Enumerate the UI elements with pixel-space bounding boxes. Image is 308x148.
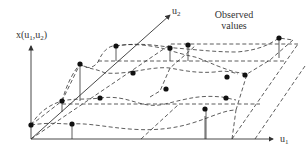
u2-axis [31, 15, 170, 139]
observed-point [130, 70, 135, 75]
surface-edge-left [31, 64, 80, 125]
surface-row-4 [80, 38, 293, 68]
observed-point [185, 42, 190, 47]
y-axis-label: x(u1,u2) [16, 29, 47, 42]
u1-axis-label: u1 [280, 133, 289, 146]
observed-point [242, 72, 247, 77]
observed-point [224, 74, 229, 79]
observed-point [77, 61, 82, 66]
observed-point [223, 95, 228, 100]
observed-point [167, 45, 172, 50]
observed-point [59, 98, 64, 103]
observed-points [28, 35, 281, 127]
random-field-diagram: x(u1,u2) u2 u1 Observed values [0, 0, 308, 148]
observed-point [276, 35, 281, 40]
observed-point [113, 43, 118, 48]
observed-point [69, 121, 74, 126]
surface-row-5 [116, 45, 247, 74]
annotation-observed: Observed [215, 9, 253, 20]
observed-point [202, 106, 207, 111]
u2-axis-label: u2 [172, 5, 181, 18]
observed-point [28, 122, 33, 127]
annotation-values: values [221, 20, 247, 31]
value-stems [62, 38, 279, 139]
observed-point [163, 86, 168, 91]
observed-point [97, 95, 102, 100]
surface-row-3 [62, 64, 238, 101]
